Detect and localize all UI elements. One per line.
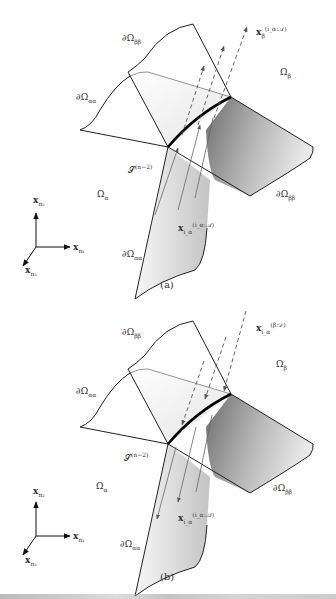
label-edge-set-b: 𝒮(n−2) <box>124 452 148 463</box>
caption-a: (a) <box>160 279 174 290</box>
scan-artifact-strip <box>0 594 336 599</box>
panel-b <box>23 311 313 596</box>
axis-label-x3-b: xn₃ <box>25 556 37 567</box>
label-boundary-alpha-bottom-b: ∂Ωαα <box>120 540 140 551</box>
label-boundary-alpha-top-a: ∂Ωαα <box>76 93 96 104</box>
label-boundary-alpha-top-b: ∂Ωαα <box>76 387 96 398</box>
label-boundary-beta-right-b: ∂Ωββ <box>273 484 292 495</box>
axis-label-x2-a: xn₂ <box>33 196 45 207</box>
diagram-canvas <box>0 0 336 599</box>
label-omega-beta-b: Ωβ <box>276 360 287 371</box>
label-flow-alpha-a: xi_α(i_α:𝒜) <box>178 222 214 235</box>
label-boundary-beta-a: ∂Ωββ <box>122 34 141 45</box>
panel-a <box>23 24 313 299</box>
label-omega-beta-a: Ωβ <box>280 68 291 79</box>
label-omega-alpha-b: Ωα <box>96 482 108 493</box>
label-flow-beta-a: xβ(i_α:𝒜) <box>256 26 287 39</box>
caption-b: (b) <box>160 571 174 582</box>
axis-label-x3-a: xn₃ <box>25 266 37 277</box>
label-omega-alpha-a: Ωα <box>97 190 109 201</box>
label-flow-beta-b: xi_α(β:𝒟) <box>256 322 286 335</box>
axes-triad-b <box>23 502 70 555</box>
label-edge-set-a: 𝒮(n−2) <box>128 164 152 175</box>
axes-triad-a <box>23 213 70 266</box>
label-boundary-beta-b: ∂Ωββ <box>122 328 141 339</box>
axis-label-x1-a: xn₁ <box>73 243 85 254</box>
axis-label-x2-b: xn₂ <box>33 487 45 498</box>
axis-label-x1-b: xn₁ <box>73 532 85 543</box>
label-flow-alpha-b: xi_α(i_α:𝒜) <box>178 512 214 525</box>
label-boundary-alpha-bottom-a: ∂Ωαα <box>122 250 142 261</box>
label-boundary-beta-right-a: ∂Ωββ <box>276 190 295 201</box>
